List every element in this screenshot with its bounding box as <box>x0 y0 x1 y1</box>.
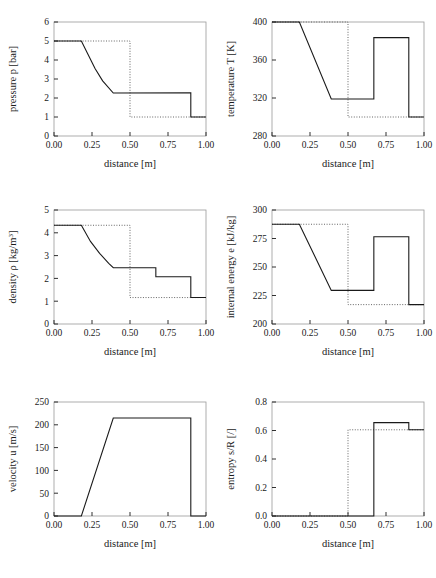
x-tick-label: 1.00 <box>416 328 433 338</box>
x-tick-label: 1.00 <box>198 140 215 150</box>
y-tick-label: 275 <box>253 234 268 244</box>
x-tick-label: 0.25 <box>302 328 319 338</box>
y-axis-title: density ρ [kg/m3] <box>7 231 18 304</box>
chart-panel-pressure: 01234560.000.250.500.751.00pressure p [b… <box>0 0 218 190</box>
x-tick-label: 0.25 <box>84 520 101 530</box>
x-tick-label: 0.75 <box>160 520 177 530</box>
y-tick-label: 400 <box>253 17 268 27</box>
y-axis-title: temperature T [K] <box>225 41 236 117</box>
chart-panel-density: 0123450.000.250.500.751.00density ρ [kg/… <box>0 188 218 378</box>
series-initial-condition <box>54 41 206 117</box>
x-axis-title: distance [m] <box>322 158 374 169</box>
y-tick-label: 4 <box>44 228 49 238</box>
x-axis-title: distance [m] <box>104 538 156 549</box>
series-initial-condition <box>54 225 206 297</box>
series-solution <box>272 224 424 304</box>
x-tick-label: 1.00 <box>416 520 433 530</box>
y-tick-label: 0.6 <box>255 426 267 436</box>
chart-panel-velocity: 0501001502002500.000.250.500.751.00veloc… <box>0 380 218 578</box>
y-axis-title: pressure p [bar] <box>7 46 18 112</box>
y-tick-label: 5 <box>44 36 49 46</box>
y-tick-label: 3 <box>44 251 49 261</box>
x-tick-label: 1.00 <box>198 520 215 530</box>
y-tick-label: 2 <box>44 93 49 103</box>
y-tick-label: 150 <box>35 443 50 453</box>
chart-panel-temperature: 2803203604000.000.250.500.751.00temperat… <box>218 0 436 190</box>
x-tick-label: 0.50 <box>122 328 139 338</box>
y-tick-label: 2 <box>44 274 49 284</box>
x-axis-title: distance [m] <box>322 538 374 549</box>
x-tick-label: 0.25 <box>302 140 319 150</box>
series-solution <box>54 418 206 516</box>
x-tick-label: 0.00 <box>264 328 281 338</box>
x-tick-label: 0.25 <box>84 140 101 150</box>
x-tick-label: 0.75 <box>378 328 395 338</box>
x-tick-label: 0.00 <box>46 520 63 530</box>
x-tick-label: 0.00 <box>264 140 281 150</box>
y-tick-label: 320 <box>253 93 268 103</box>
x-tick-label: 0.75 <box>378 520 395 530</box>
y-tick-label: 225 <box>253 291 268 301</box>
x-axis-title: distance [m] <box>322 346 374 357</box>
y-tick-label: 1 <box>44 297 49 307</box>
x-tick-label: 0.50 <box>340 520 357 530</box>
y-tick-label: 50 <box>40 489 50 499</box>
x-tick-label: 0.50 <box>340 328 357 338</box>
figure-panel-grid: 01234560.000.250.500.751.00pressure p [b… <box>0 0 436 578</box>
x-tick-label: 0.75 <box>160 328 177 338</box>
y-tick-label: 5 <box>44 205 49 215</box>
y-tick-label: 250 <box>253 262 268 272</box>
y-tick-label: 0.4 <box>255 454 267 464</box>
y-tick-label: 300 <box>253 205 268 215</box>
x-tick-label: 0.00 <box>46 328 63 338</box>
x-tick-label: 0.75 <box>160 140 177 150</box>
y-tick-label: 0.2 <box>255 483 267 493</box>
plot-frame <box>54 22 206 136</box>
x-tick-label: 0.00 <box>264 520 281 530</box>
chart-panel-internal-energy: 2002252502753000.000.250.500.751.00inter… <box>218 188 436 378</box>
y-axis-title: entropy s/R [/] <box>225 428 236 489</box>
x-tick-label: 0.50 <box>340 140 357 150</box>
y-tick-label: 1 <box>44 112 49 122</box>
x-axis-title: distance [m] <box>104 158 156 169</box>
x-tick-label: 0.50 <box>122 520 139 530</box>
y-tick-label: 250 <box>35 397 50 407</box>
y-tick-label: 3 <box>44 74 49 84</box>
x-tick-label: 0.75 <box>378 140 395 150</box>
x-tick-label: 1.00 <box>198 328 215 338</box>
x-tick-label: 0.50 <box>122 140 139 150</box>
plot-frame <box>54 402 206 516</box>
x-tick-label: 1.00 <box>416 140 433 150</box>
x-tick-label: 0.00 <box>46 140 63 150</box>
chart-panel-entropy: 0.00.20.40.60.80.000.250.500.751.00entro… <box>218 380 436 578</box>
y-axis-title: internal energy e [kJ/kg] <box>225 216 236 319</box>
y-tick-label: 100 <box>35 466 50 476</box>
series-initial-condition <box>272 430 424 516</box>
series-initial-condition <box>272 22 424 117</box>
y-tick-label: 6 <box>44 17 49 27</box>
y-tick-label: 360 <box>253 55 268 65</box>
y-tick-label: 4 <box>44 55 49 65</box>
x-tick-label: 0.25 <box>84 328 101 338</box>
y-tick-label: 0.8 <box>255 397 267 407</box>
x-axis-title: distance [m] <box>104 346 156 357</box>
x-tick-label: 0.25 <box>302 520 319 530</box>
y-tick-label: 200 <box>35 420 50 430</box>
y-axis-title: velocity u [m/s] <box>7 426 18 493</box>
